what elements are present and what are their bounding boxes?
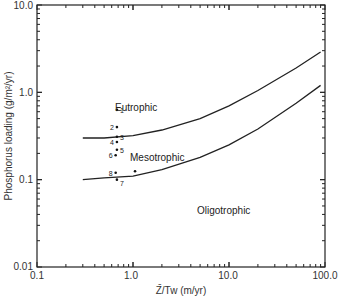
x-tick-label: 1.0 <box>124 270 138 281</box>
y-tick-label: 0.1 <box>19 174 33 185</box>
x-tick-label: 100.0 <box>312 270 337 281</box>
x-tick-label: 10.0 <box>218 270 238 281</box>
region-label-eutrophic: Eutrophic <box>115 102 157 113</box>
svg-text:2: 2 <box>110 124 114 131</box>
y-tick-label: 10.0 <box>14 0 34 11</box>
svg-text:7: 7 <box>120 180 124 187</box>
x-tick-label: 0.1 <box>30 270 44 281</box>
svg-text:5: 5 <box>120 147 124 154</box>
y-axis-title: Phosphorus loading (g/m²/yr) <box>3 72 14 201</box>
svg-text:6: 6 <box>109 152 113 159</box>
region-label-mesotrophic: Mesotrophic <box>130 152 184 163</box>
svg-text:4: 4 <box>110 139 114 146</box>
eutrophic-boundary-line <box>83 52 321 138</box>
region-label-oligotrophic: Oligotrophic <box>197 205 250 216</box>
x-axis-title: Z̄/Tw (m/yr) <box>156 284 207 296</box>
plot-frame <box>37 5 325 267</box>
chart: 10.0 1.0 0.1 0.01 0.1 1.0 10.0 100.0 Z̄/… <box>0 0 343 298</box>
y-tick-label: 1.0 <box>19 87 33 98</box>
oligotrophic-boundary-line <box>83 85 321 179</box>
data-points: 12345687 <box>109 107 137 187</box>
axis-ticks <box>37 5 325 267</box>
svg-text:8: 8 <box>109 170 113 177</box>
svg-text:3: 3 <box>120 134 124 141</box>
